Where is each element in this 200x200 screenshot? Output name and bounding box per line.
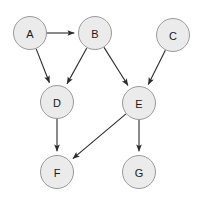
- edge-B-to-D: [67, 48, 87, 84]
- edge-C-to-E: [148, 50, 165, 84]
- node-D[interactable]: D: [41, 86, 74, 119]
- node-F[interactable]: F: [41, 156, 74, 189]
- node-label-E: E: [135, 98, 142, 110]
- node-label-C: C: [169, 30, 177, 42]
- node-G[interactable]: G: [123, 156, 156, 189]
- diagram-canvas: ABCDEFG: [0, 0, 200, 200]
- node-E[interactable]: E: [123, 87, 156, 120]
- node-label-B: B: [91, 28, 98, 40]
- node-label-F: F: [54, 167, 61, 179]
- edge-A-to-D: [36, 49, 49, 83]
- node-B[interactable]: B: [79, 17, 112, 50]
- node-A[interactable]: A: [14, 17, 47, 50]
- edge-B-to-E: [104, 47, 128, 85]
- edge-E-to-F: [73, 114, 126, 159]
- node-label-D: D: [53, 97, 61, 109]
- node-label-G: G: [135, 167, 144, 179]
- directed-graph: ABCDEFG: [0, 0, 200, 200]
- node-label-A: A: [26, 28, 34, 40]
- node-C[interactable]: C: [157, 19, 190, 52]
- nodes-layer: ABCDEFG: [14, 17, 190, 189]
